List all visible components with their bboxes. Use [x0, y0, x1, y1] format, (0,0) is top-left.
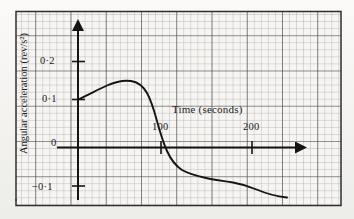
x-axis-title: Time (seconds): [172, 104, 243, 115]
y-tick-label-minus-0.1: −0·1: [32, 182, 53, 193]
x-tick-label-100: 100: [152, 122, 168, 133]
paper-speck: [15, 199, 17, 201]
x-tick-label-200: 200: [243, 122, 259, 133]
y-axis-title: Angular acceleration (rev/s²): [18, 19, 29, 169]
graph-figure: 0·2 0·1 0 −0·1 100 200 Time (seconds) An…: [0, 0, 354, 219]
y-tick-label-0: 0: [51, 138, 56, 149]
y-tick-label-0.2: 0·2: [40, 56, 55, 67]
y-tick-label-0.1: 0·1: [42, 94, 57, 105]
